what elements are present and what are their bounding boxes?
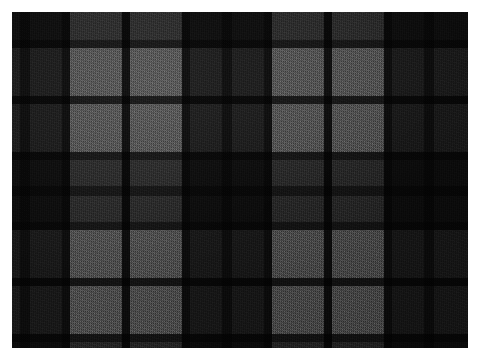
tartan-fabric-swatch <box>12 12 468 348</box>
cloth-lighting-sheen <box>12 12 468 348</box>
image-canvas <box>0 0 479 360</box>
